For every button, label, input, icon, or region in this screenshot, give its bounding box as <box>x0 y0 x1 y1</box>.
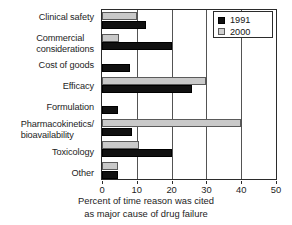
legend-entry-2000: 2000 <box>217 26 269 37</box>
category-label-line: bioavailability <box>21 130 94 141</box>
gridline-20 <box>172 10 173 179</box>
black-square-swatch-icon <box>218 17 225 24</box>
category-axis-labels: Clinical safety Commercial consideration… <box>0 8 98 180</box>
bar-2000-6 <box>102 141 139 149</box>
bar-1991-4 <box>102 106 118 114</box>
x-tick-label-30: 30 <box>201 184 211 195</box>
legend-label: 2000 <box>230 27 250 37</box>
legend: 1991 2000 <box>213 11 273 38</box>
category-label-commercial-considerations: Commercial considerations <box>36 33 94 54</box>
bar-chart-figure: Clinical safety Commercial consideration… <box>0 0 292 225</box>
x-axis-title-line: Percent of time reason was cited <box>0 195 292 208</box>
x-tick-label-50: 50 <box>271 184 281 195</box>
category-label-line: considerations <box>36 44 94 55</box>
bar-2000-7 <box>102 162 118 170</box>
bar-2000-1 <box>102 34 119 42</box>
category-label-toxicology: Toxicology <box>52 147 94 158</box>
bar-1991-0 <box>102 21 146 29</box>
category-label-efficacy: Efficacy <box>63 81 94 92</box>
category-label-line: Cost of goods <box>39 60 94 71</box>
bar-2000-5 <box>102 119 241 127</box>
gridline-30 <box>206 10 207 179</box>
category-label-cost-of-goods: Cost of goods <box>39 60 94 71</box>
bar-1991-6 <box>102 149 172 157</box>
x-tick-label-0: 0 <box>99 184 104 195</box>
x-tick-label-20: 20 <box>166 184 176 195</box>
category-label-line: Pharmacokinetics/ <box>21 119 94 130</box>
category-label-line: Commercial <box>36 33 94 44</box>
bar-2000-0 <box>102 12 137 20</box>
x-axis-title: Percent of time reason was cited as majo… <box>0 195 292 220</box>
bar-1991-7 <box>102 171 118 179</box>
category-label-other: Other <box>72 168 94 179</box>
bar-1991-3 <box>102 85 192 93</box>
category-label-line: Clinical safety <box>39 12 94 23</box>
x-tick-label-40: 40 <box>236 184 246 195</box>
x-tick-label-10: 10 <box>132 184 142 195</box>
legend-entry-1991: 1991 <box>217 15 269 26</box>
legend-label: 1991 <box>230 15 250 25</box>
bar-1991-1 <box>102 42 172 50</box>
bar-1991-5 <box>102 128 132 136</box>
category-label-pharmacokinetics-bioavailability: Pharmacokinetics/ bioavailability <box>21 119 94 140</box>
category-label-clinical-safety: Clinical safety <box>39 12 94 23</box>
gray-square-swatch-icon <box>218 28 225 35</box>
bar-2000-3 <box>102 77 206 85</box>
category-label-line: Other <box>72 168 94 179</box>
x-axis-title-line: as major cause of drug failure <box>0 208 292 221</box>
category-label-line: Formulation <box>47 102 94 113</box>
x-axis: 01020304050 <box>101 181 277 195</box>
category-label-line: Efficacy <box>63 81 94 92</box>
category-label-line: Toxicology <box>52 147 94 158</box>
bar-1991-2 <box>102 64 130 72</box>
category-label-formulation: Formulation <box>47 102 94 113</box>
